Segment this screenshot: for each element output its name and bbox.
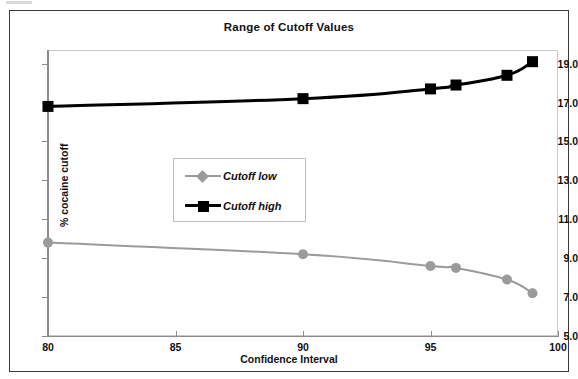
y-tick-mark bbox=[42, 219, 48, 220]
y-axis-line bbox=[47, 50, 49, 337]
y-tick-label: 19.0 bbox=[544, 58, 578, 70]
legend-marker-diamond-icon bbox=[185, 169, 221, 183]
y-tick-label: 15.0 bbox=[544, 135, 578, 147]
y-tick-label: 11.0 bbox=[544, 213, 578, 225]
y-axis-title: % cocaine cutoff bbox=[57, 130, 71, 240]
y-tick-mark bbox=[42, 141, 48, 142]
y-tick-mark bbox=[42, 103, 48, 104]
scan-artifact bbox=[6, 1, 32, 4]
y-tick-label: 17.0 bbox=[544, 97, 578, 109]
x-axis-title: Confidence Interval bbox=[0, 353, 578, 365]
legend-label-cutoff-low: Cutoff low bbox=[223, 170, 277, 182]
chart-screenshot: Range of Cutoff Values 5.07.09.011.013.0… bbox=[0, 0, 578, 379]
legend-item-cutoff-high: Cutoff high bbox=[174, 195, 307, 217]
y-tick-mark bbox=[42, 297, 48, 298]
y-tick-label: 9.0 bbox=[544, 252, 578, 264]
legend-item-cutoff-low: Cutoff low bbox=[174, 165, 307, 187]
x-tick-label: 90 bbox=[297, 341, 309, 353]
y-tick-mark bbox=[42, 258, 48, 259]
x-tick-label: 85 bbox=[170, 341, 182, 353]
y-tick-mark bbox=[42, 180, 48, 181]
x-tick-label: 95 bbox=[425, 341, 437, 353]
legend-label-cutoff-high: Cutoff high bbox=[223, 200, 281, 212]
x-tick-mark bbox=[303, 331, 304, 337]
x-tick-mark bbox=[558, 331, 559, 337]
x-tick-label: 80 bbox=[42, 341, 54, 353]
x-tick-mark bbox=[431, 331, 432, 337]
y-tick-mark bbox=[42, 64, 48, 65]
legend: Cutoff low Cutoff high bbox=[173, 158, 306, 222]
legend-marker-square-icon bbox=[185, 199, 221, 213]
y-tick-label: 7.0 bbox=[544, 291, 578, 303]
x-tick-mark bbox=[176, 331, 177, 337]
x-tick-mark bbox=[48, 331, 49, 337]
chart-title: Range of Cutoff Values bbox=[0, 21, 578, 33]
y-tick-label: 13.0 bbox=[544, 174, 578, 186]
x-tick-label: 100 bbox=[549, 341, 567, 353]
